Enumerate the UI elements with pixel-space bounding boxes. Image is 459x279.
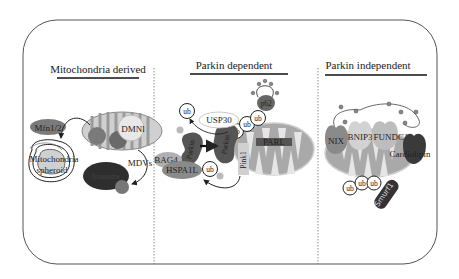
fundc1-label: FUNDC1 <box>373 132 408 142</box>
nix-label: NIX <box>328 136 344 146</box>
parkin-dependent-panel: PARL p62 ub ub ub Parkin Pink1 Parkin BA <box>154 79 314 188</box>
bnip3-label: BNIP3 <box>347 132 373 142</box>
dmnl-label: DMNl <box>121 124 145 134</box>
ub-label: ub <box>370 179 378 188</box>
panel-title-parkin-independent: Parkin independent <box>325 59 410 71</box>
panel-title-parkin-dependent: Parkin dependent <box>196 59 273 71</box>
usp30-label: USP30 <box>206 115 232 125</box>
parl-label: PARL <box>263 137 285 147</box>
spheroid-label-line2: spheroid <box>37 165 68 175</box>
p62-label: p62 <box>260 99 272 108</box>
phospho-circle <box>217 173 224 180</box>
mito-derived-panel: DMNl Mfn1/2 Mitochondria spheroid lysoso… <box>29 112 162 194</box>
ub-label: ub <box>254 114 262 123</box>
mfn-label: Mfn1/2 <box>35 123 62 133</box>
ub-label: ub <box>206 165 214 174</box>
hspa1l-label: HSPA1L <box>166 165 198 175</box>
panel-title-mito-derived: Mitochondria derived <box>50 63 146 75</box>
ub-label: ub <box>183 107 191 116</box>
mdv-vesicle <box>115 180 129 194</box>
diagram-stage: Mitochondria derived Parkin dependent Pa… <box>0 0 459 279</box>
phospho-circle <box>177 127 184 134</box>
ub-label: ub <box>346 184 354 193</box>
pink1-label: Pink1 <box>239 151 248 169</box>
ub-label: ub <box>243 120 251 129</box>
mdvs-label: MDVs <box>128 158 153 168</box>
ub-label: ub <box>358 179 366 188</box>
lysosome-label: lysosome <box>92 172 121 181</box>
spheroid-label-line1: Mitochondria <box>30 154 79 164</box>
parkin-independent-panel: NIX BNIP3 FUNDC1 Cardiolipin ub ub ub Sm… <box>325 102 431 211</box>
mitophagy-diagram: Mitochondria derived Parkin dependent Pa… <box>0 0 459 279</box>
cardiolipin-label: Cardiolipin <box>390 149 431 159</box>
